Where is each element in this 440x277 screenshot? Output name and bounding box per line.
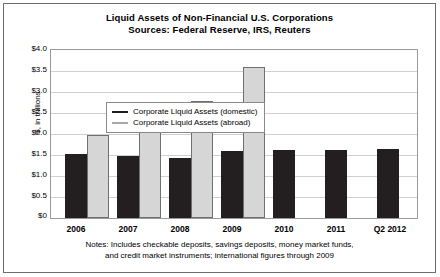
y-tick-label: $1.0	[7, 171, 47, 179]
legend-label-abroad: Corporate Liquid Assets (abroad)	[133, 118, 250, 127]
chart-title-block: Liquid Assets of Non-Financial U.S. Corp…	[4, 12, 435, 36]
x-tick-label-2007: 2007	[102, 224, 154, 234]
x-tick-label-2009: 2009	[206, 224, 258, 234]
plot-area: Corporate Liquid Assets (domestic) Corpo…	[50, 49, 418, 219]
y-tick-label: $0	[7, 212, 47, 220]
legend-item-abroad: Corporate Liquid Assets (abroad)	[112, 117, 258, 128]
y-tick-label: $2.0	[7, 129, 47, 137]
legend-label-domestic: Corporate Liquid Assets (domestic)	[133, 107, 258, 116]
chart-container: Liquid Assets of Non-Financial U.S. Corp…	[3, 3, 436, 273]
gridline	[51, 92, 417, 93]
bar-domestic-q2-2012	[377, 149, 399, 218]
legend-swatch-icon	[112, 122, 128, 124]
page-title: Liquid Assets of Non-Financial U.S. Corp…	[4, 12, 435, 24]
chart-notes: Notes: Includes checkable deposits, savi…	[4, 239, 435, 261]
y-axis-tick-labels: $4.0 $3.5 $3.0 $2.5 $2.0 $1.5 $1.0 $0.5 …	[4, 49, 47, 219]
bar-domestic-2010	[273, 150, 295, 218]
note-line: and credit market instruments; internati…	[4, 250, 435, 261]
gridline	[51, 71, 417, 72]
x-tick-label-2008: 2008	[154, 224, 206, 234]
bar-domestic-2011	[325, 150, 347, 218]
legend-item-domestic: Corporate Liquid Assets (domestic)	[112, 106, 258, 117]
chart-legend: Corporate Liquid Assets (domestic) Corpo…	[106, 102, 265, 133]
bar-abroad-2006	[87, 135, 109, 218]
y-tick-label: $3.0	[7, 87, 47, 95]
bar-abroad-2007	[139, 122, 161, 218]
bar-domestic-2007	[117, 156, 139, 218]
legend-swatch-icon	[112, 111, 128, 113]
x-tick-label-q2-2012: Q2 2012	[362, 224, 418, 234]
y-tick-label: $1.5	[7, 150, 47, 158]
note-line: Notes: Includes checkable deposits, savi…	[4, 239, 435, 250]
y-tick-label: $0.5	[7, 192, 47, 200]
x-tick-label-2006: 2006	[50, 224, 102, 234]
y-tick-label: $4.0	[7, 45, 47, 53]
x-tick-label-2010: 2010	[258, 224, 310, 234]
bar-domestic-2006	[65, 154, 87, 218]
y-tick-label: $3.5	[7, 66, 47, 74]
y-tick-label: $2.5	[7, 108, 47, 116]
bar-domestic-2009	[221, 151, 243, 218]
chart-subtitle: Sources: Federal Reserve, IRS, Reuters	[4, 24, 435, 36]
bar-abroad-2009	[243, 67, 265, 218]
x-tick-label-2011: 2011	[310, 224, 362, 234]
bar-domestic-2008	[169, 158, 191, 218]
